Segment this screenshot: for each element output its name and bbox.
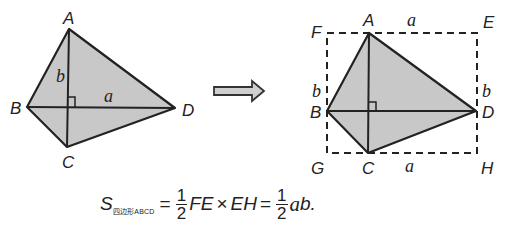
formula-b: b. [300, 193, 316, 215]
formula-fe: FE [189, 193, 213, 215]
label-A-right: A [362, 11, 374, 30]
left-quadrilateral: A B C D b a [10, 9, 194, 172]
area-formula: S 四边形ABCD = 1 2 FE × EH = 1 2 a b. [100, 184, 316, 224]
label-B: B [10, 99, 21, 118]
fraction-denominator: 2 [277, 205, 286, 222]
label-A: A [62, 9, 74, 28]
fraction-numerator: 1 [276, 187, 287, 205]
transform-arrow-icon [214, 81, 264, 101]
label-D-right: D [482, 103, 494, 122]
right-figure: A B C D E F G H a a b b [310, 10, 495, 178]
label-C-right: C [362, 159, 375, 178]
fraction-half-1: 1 2 [176, 187, 187, 222]
diagonal-bd [27, 107, 175, 108]
formula-equals-2: = [260, 193, 271, 215]
fraction-numerator: 1 [176, 187, 187, 205]
label-D: D [182, 101, 194, 120]
label-H: H [481, 159, 494, 178]
formula-subscript: 四边形ABCD [113, 206, 155, 216]
label-C: C [62, 153, 75, 172]
label-a-top: a [407, 10, 416, 30]
diagonal-ac-right [368, 33, 369, 153]
formula-s: S [100, 193, 113, 215]
formula-times: × [216, 193, 227, 215]
label-b: b [56, 66, 65, 86]
quad-abcd-inscribed [327, 33, 476, 153]
fraction-half-2: 1 2 [276, 187, 287, 222]
label-a-bottom: a [405, 156, 414, 176]
label-b-right: b [482, 81, 491, 101]
label-F: F [311, 23, 323, 42]
label-G: G [311, 159, 324, 178]
formula-equals-1: = [160, 193, 171, 215]
formula-eh: EH [231, 193, 257, 215]
fraction-denominator: 2 [177, 205, 186, 222]
formula-a: a [290, 192, 301, 217]
label-E: E [483, 13, 495, 32]
label-b-left: b [312, 81, 321, 101]
label-a: a [104, 86, 113, 106]
label-B-right: B [310, 103, 321, 122]
quad-abcd [27, 29, 175, 147]
